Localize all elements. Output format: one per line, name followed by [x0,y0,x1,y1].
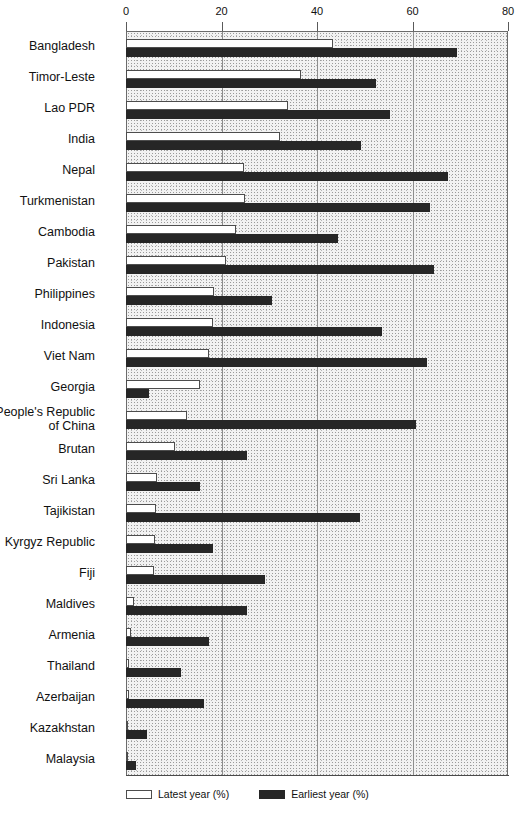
bar-latest-year [126,504,156,513]
category-label: Fiji [0,566,95,580]
bar-earliest-year [126,420,416,429]
bar-earliest-year [126,513,360,522]
legend-item: Earliest year (%) [259,788,369,800]
bar-earliest-year [126,668,181,677]
chart-row: Viet Nam [0,341,531,372]
category-label: India [0,132,95,146]
bar-earliest-year [126,172,448,181]
bar-latest-year [126,380,200,389]
category-label: Kyrgyz Republic [0,535,95,549]
bar-latest-year [126,163,244,172]
bar-chart: 020406080 BangladeshTimor-LesteLao PDRIn… [0,0,531,829]
chart-row: Bangladesh [0,31,531,62]
chart-row: Lao PDR [0,93,531,124]
category-label: Indonesia [0,318,95,332]
bar-earliest-year [126,451,247,460]
chart-row: Sri Lanka [0,465,531,496]
bar-earliest-year [126,761,136,770]
chart-legend: Latest year (%)Earliest year (%) [126,788,369,800]
category-label: Timor-Leste [0,70,95,84]
bar-earliest-year [126,544,213,553]
category-label: Azerbaijan [0,690,95,704]
legend-swatch-latest-icon [126,790,152,799]
bar-latest-year [126,225,236,234]
bar-latest-year [126,194,245,203]
legend-label: Earliest year (%) [291,788,369,800]
x-axis-tick-label: 40 [311,6,323,17]
category-label: Bangladesh [0,39,95,53]
chart-row: Turkmenistan [0,186,531,217]
chart-row: Timor-Leste [0,62,531,93]
category-label: Cambodia [0,225,95,239]
bar-earliest-year [126,730,147,739]
x-axis-tick [508,22,509,31]
x-axis: 020406080 [0,0,531,31]
category-label: People's Republic of China [0,405,95,433]
category-label: Georgia [0,380,95,394]
bar-latest-year [126,721,128,730]
bar-latest-year [126,690,129,699]
bar-earliest-year [126,699,204,708]
bar-earliest-year [126,327,382,336]
category-label: Viet Nam [0,349,95,363]
category-label: Thailand [0,659,95,673]
category-label: Armenia [0,628,95,642]
bar-earliest-year [126,265,434,274]
bar-earliest-year [126,48,457,57]
bar-earliest-year [126,606,247,615]
category-label: Brutan [0,442,95,456]
bar-latest-year [126,628,131,637]
category-label: Maldives [0,597,95,611]
chart-row: India [0,124,531,155]
chart-row: Maldives [0,589,531,620]
bar-latest-year [126,132,280,141]
legend-item: Latest year (%) [126,788,229,800]
chart-row: Malaysia [0,744,531,775]
x-axis-tick-label: 60 [406,6,418,17]
bar-earliest-year [126,79,376,88]
bar-earliest-year [126,203,430,212]
chart-row: Cambodia [0,217,531,248]
x-axis-tick [126,22,127,31]
bar-earliest-year [126,358,427,367]
category-label: Malaysia [0,752,95,766]
bar-latest-year [126,411,187,420]
x-axis-tick [222,22,223,31]
bar-earliest-year [126,482,200,491]
category-label: Pakistan [0,256,95,270]
chart-row: Philippines [0,279,531,310]
bar-latest-year [126,566,154,575]
bar-latest-year [126,349,209,358]
bar-latest-year [126,597,134,606]
bar-latest-year [126,256,226,265]
chart-row: Pakistan [0,248,531,279]
bar-earliest-year [126,637,209,646]
category-label: Nepal [0,163,95,177]
x-axis-tick-label: 20 [215,6,227,17]
chart-row: Thailand [0,651,531,682]
bar-earliest-year [126,575,265,584]
bar-latest-year [126,39,333,48]
bar-earliest-year [126,110,390,119]
category-label: Sri Lanka [0,473,95,487]
legend-label: Latest year (%) [158,788,229,800]
bar-latest-year [126,101,288,110]
bar-latest-year [126,70,301,79]
bar-latest-year [126,318,213,327]
bar-latest-year [126,535,155,544]
x-axis-tick-label: 0 [123,6,129,17]
chart-row: Nepal [0,155,531,186]
chart-row: Indonesia [0,310,531,341]
chart-row: People's Republic of China [0,403,531,434]
category-label: Philippines [0,287,95,301]
chart-row: Brutan [0,434,531,465]
bar-latest-year [126,473,157,482]
category-label: Tajikistan [0,504,95,518]
bar-latest-year [126,752,128,761]
chart-row: Kyrgyz Republic [0,527,531,558]
x-axis-tick [317,22,318,31]
chart-row: Azerbaijan [0,682,531,713]
legend-swatch-earliest-icon [259,790,285,799]
bar-latest-year [126,659,129,668]
chart-row: Armenia [0,620,531,651]
